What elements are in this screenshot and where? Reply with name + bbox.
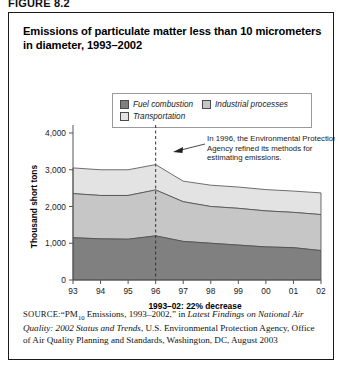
x-tick-label: 94	[96, 286, 106, 296]
source-text-part1: “PM	[61, 309, 78, 319]
y-tick-label: 0	[61, 275, 66, 285]
x-tick-label: 02	[316, 286, 326, 296]
y-tick-label: 4,000	[45, 128, 66, 138]
x-tick-label: 99	[234, 286, 244, 296]
x-tick-label: 96	[151, 286, 161, 296]
y-axis-title: Thousand short tons	[29, 165, 39, 249]
source-text-part2: Emissions, 1993–2002,” in	[84, 309, 187, 319]
annotation-line-3: estimating emissions.	[207, 153, 282, 162]
annotation-arrow-icon	[173, 144, 205, 153]
x-tick-label: 98	[206, 286, 216, 296]
annotation-line-2: Agency refined its methods for	[207, 144, 313, 153]
y-tick-label: 2,000	[45, 202, 66, 212]
source-citation: SOURCE:“PM10 Emissions, 1993–2002,” in L…	[23, 309, 323, 346]
x-tick-label: 95	[123, 286, 133, 296]
x-tick-label: 93	[68, 286, 78, 296]
y-tick-label: 1,000	[45, 238, 66, 248]
figure-box: Emissions of particulate matter less tha…	[8, 12, 334, 360]
x-tick-label: 00	[261, 286, 271, 296]
source-lead-label: SOURCE:	[23, 309, 61, 319]
x-axis-ticks: 93949596979899000102	[68, 280, 326, 296]
y-axis-ticks: 01,0002,0003,0004,000	[45, 128, 73, 285]
figure-number-label: FIGURE 8.2	[8, 0, 70, 9]
area-series-group	[73, 165, 321, 280]
y-tick-label: 3,000	[45, 165, 66, 175]
x-tick-label: 01	[289, 286, 299, 296]
x-tick-label: 97	[179, 286, 189, 296]
annotation-line-1: In 1996, the Environmental Protection	[207, 134, 335, 143]
